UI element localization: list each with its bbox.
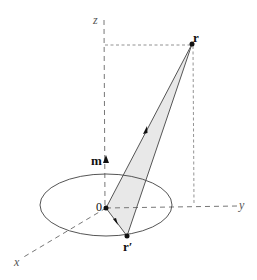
current-loop [40, 174, 172, 236]
m-vector-arrow-icon [103, 155, 109, 163]
m-vector-label: m [91, 154, 102, 167]
diagram-canvas [0, 0, 257, 280]
r-projection-vertical [193, 46, 194, 205]
point-origin [104, 206, 109, 211]
point-r-label: r [193, 31, 199, 44]
z-axis [104, 20, 105, 206]
origin-label: 0 [96, 201, 102, 213]
point-r-prime [125, 234, 130, 239]
x-axis-label: x [14, 256, 19, 268]
point-r-prime-label: r′ [123, 240, 132, 253]
arrow-icon [143, 126, 148, 134]
x-axis [22, 208, 106, 258]
z-axis-label: z [93, 14, 98, 26]
vector-r-to-origin [106, 44, 192, 208]
y-axis-label: y [239, 199, 244, 211]
